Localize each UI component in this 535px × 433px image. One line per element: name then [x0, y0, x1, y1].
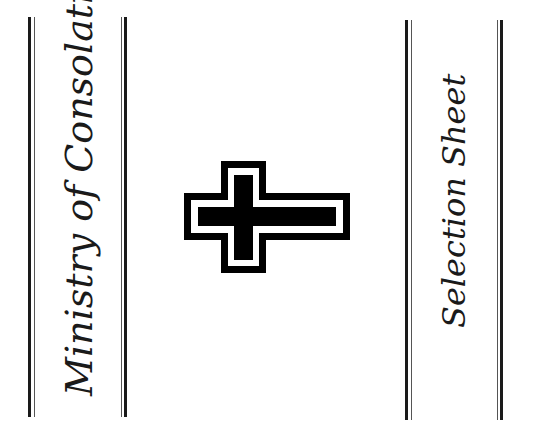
right-inner-rule-thick — [500, 20, 503, 420]
selection-sheet-title: Selection Sheet — [438, 74, 470, 328]
right-outer-rule-thin — [411, 20, 412, 420]
right-outer-rule-thick — [405, 20, 408, 420]
right-inner-rule-thin — [497, 20, 498, 420]
